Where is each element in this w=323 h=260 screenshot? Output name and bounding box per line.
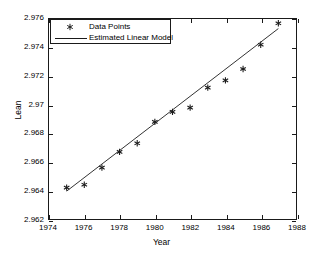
x-axis-tick [191, 215, 192, 219]
y-axis-tick [49, 77, 53, 78]
x-axis-tick [227, 215, 228, 219]
x-axis-tick [262, 215, 263, 219]
y-axis-tick [49, 163, 53, 164]
y-axis-tick [292, 192, 296, 193]
data-point-marker [205, 84, 210, 90]
figure-canvas: 197419761978198019821984198619882.9622.9… [0, 0, 323, 260]
x-axis-tick-label: 1982 [181, 223, 199, 233]
y-axis-tick [292, 106, 296, 107]
y-axis-tick-label: 2.964 [24, 186, 44, 196]
legend-sample-line [51, 32, 89, 44]
x-axis-tick-label: 1984 [217, 223, 235, 233]
data-point-marker [223, 77, 228, 83]
legend-entry-linear-model: Estimated Linear Model [51, 32, 170, 44]
x-axis-tick [227, 19, 228, 23]
line-swatch [55, 38, 87, 39]
y-axis-tick [49, 192, 53, 193]
y-axis-tick [292, 134, 296, 135]
x-axis-tick [156, 215, 157, 219]
x-axis-tick [298, 19, 299, 23]
x-axis-tick-label: 1980 [146, 223, 164, 233]
data-layer [49, 19, 296, 219]
y-axis-title: Lean [13, 80, 23, 140]
x-axis-tick-label: 1976 [75, 223, 93, 233]
y-axis-tick [292, 163, 296, 164]
y-axis-tick [49, 134, 53, 135]
legend-box: Data Points Estimated Linear Model [50, 19, 171, 44]
y-axis-tick [49, 221, 53, 222]
legend-label-linear-model: Estimated Linear Model [89, 32, 173, 44]
data-point-marker [187, 104, 192, 110]
data-point-marker [134, 140, 139, 146]
x-axis-title: Year [0, 237, 323, 247]
y-axis-tick [49, 106, 53, 107]
data-point-marker [240, 66, 245, 72]
y-axis-tick [292, 221, 296, 222]
y-axis-tick-label: 2.976 [24, 13, 44, 23]
y-axis-tick [292, 77, 296, 78]
x-axis-tick-label: 1988 [288, 223, 306, 233]
x-axis-tick [49, 215, 50, 219]
y-axis-tick-label: 2.974 [24, 42, 44, 52]
y-axis-tick-label: 2.972 [24, 71, 44, 81]
x-axis-tick [85, 215, 86, 219]
plot-area [48, 18, 297, 220]
y-axis-tick [292, 48, 296, 49]
y-axis-tick-label: 2.97 [28, 100, 44, 110]
y-axis-tick-label: 2.966 [24, 157, 44, 167]
y-axis-tick [292, 19, 296, 20]
x-axis-tick [120, 215, 121, 219]
data-point-marker [276, 20, 281, 26]
data-point-marker [82, 182, 87, 188]
asterisk-icon [66, 23, 75, 32]
y-axis-tick [49, 48, 53, 49]
regression-line [67, 29, 279, 192]
y-axis-tick-label: 2.968 [24, 128, 44, 138]
x-axis-tick-label: 1986 [253, 223, 271, 233]
x-axis-tick [298, 215, 299, 219]
x-axis-tick-label: 1978 [110, 223, 128, 233]
x-axis-tick [262, 19, 263, 23]
y-axis-tick-label: 2.962 [24, 215, 44, 225]
x-axis-tick [191, 19, 192, 23]
